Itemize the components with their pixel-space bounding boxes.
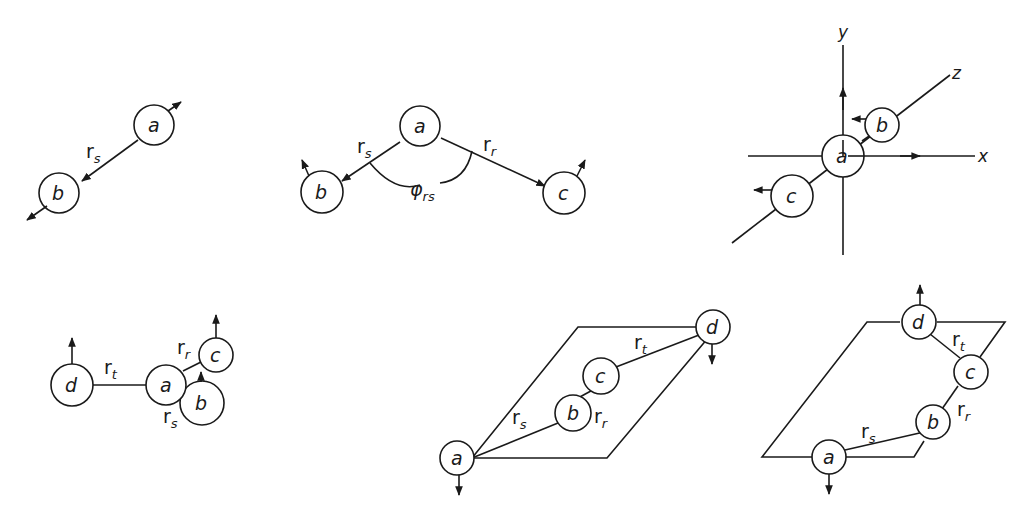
label-rr: rr (957, 398, 972, 424)
panel-torsion-skew: a b c d rt rr rs (762, 285, 1005, 494)
atom-c-label: c (786, 185, 797, 207)
atom-c-label: c (210, 344, 221, 366)
label-rr: rr (594, 405, 609, 431)
label-rt: rt (104, 356, 118, 382)
atom-b-label: b (927, 411, 939, 433)
label-rs: rs (512, 406, 527, 432)
bond-rr (183, 362, 201, 371)
atom-b-label: b (315, 181, 327, 203)
label-rs: rs (357, 135, 372, 161)
label-rs: rs (163, 405, 178, 431)
panel-linear-bend-axes: y x z a b c (732, 22, 989, 255)
atom-d-label: d (706, 316, 719, 338)
label-rs: rs (861, 420, 876, 446)
atom-a-label: a (823, 446, 835, 468)
displacement-arrow-b (302, 160, 309, 176)
atom-a-label: a (160, 374, 172, 396)
atom-a-label: a (414, 115, 426, 137)
panel-torsion-planar: a b c d rs rr rt (440, 310, 730, 495)
label-rt: rt (952, 328, 966, 354)
z-axis-label: z (951, 63, 962, 83)
atom-d-label: d (65, 374, 78, 396)
bond-rr (942, 386, 958, 409)
angle-arc-right (440, 151, 472, 183)
label-phi-rs: φrs (410, 178, 435, 204)
atom-c-label: c (965, 361, 976, 383)
label-rs: rs (86, 140, 101, 166)
atom-a-label: a (451, 447, 463, 469)
atom-a-label: a (148, 114, 160, 136)
plane-bottom-edge (845, 441, 924, 457)
atom-a-label: a (836, 145, 848, 167)
displacement-arrow-b (27, 206, 47, 220)
atom-b-label: b (52, 182, 64, 204)
atom-c-label: c (558, 182, 569, 204)
atom-c-label: c (595, 365, 606, 387)
x-axis-label: x (977, 146, 989, 166)
bond-rs (472, 423, 558, 458)
atom-b-label: b (876, 114, 888, 136)
bond-rs (845, 432, 924, 450)
y-axis-label: y (837, 22, 849, 42)
label-rt: rt (634, 331, 648, 357)
displacement-arrow-a (168, 102, 181, 111)
displacement-arrow-c (577, 160, 585, 176)
internal-coordinates-figure: a b rs a b c rs rr φrs y x z a (0, 0, 1030, 517)
atom-b-label: b (567, 402, 579, 424)
panel-angle-bend: a b c rs rr φrs (301, 106, 585, 214)
panel-bond-stretch: a b rs (27, 102, 181, 220)
label-rr: rr (483, 133, 498, 159)
panel-out-of-plane: d b a c rt rr rs (51, 315, 233, 431)
plane-parallelogram (472, 327, 708, 458)
atom-d-label: d (912, 311, 925, 333)
atom-b-label: b (195, 392, 207, 414)
label-rr: rr (177, 336, 192, 362)
